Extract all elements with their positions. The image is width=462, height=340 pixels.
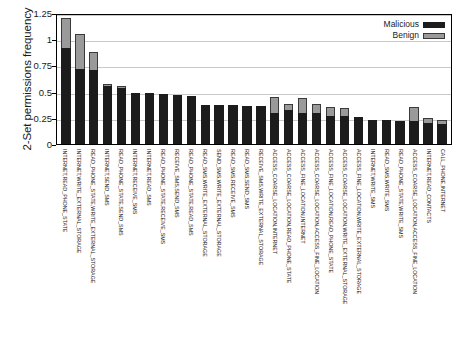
legend: Malicious Benign <box>384 19 445 41</box>
x-tick-label: RECEIVE_SMS,WRITE_EXTERNAL_STORAGE <box>258 149 264 265</box>
bar-group <box>226 15 240 144</box>
x-label-cell: ACCESS_COARSE_LOCATION,READ_PHONE_STATE <box>282 147 296 337</box>
bar-segment-malicious <box>326 116 335 144</box>
x-label-cell: ACCESS_COARSE_LOCATION,ACCESS_FINE_LOCAT… <box>408 147 422 337</box>
bar-segment-benign <box>61 18 70 47</box>
x-tick-label: READ_PHONE_STATE,READ_SMS <box>188 149 194 236</box>
bar-segment-malicious <box>187 96 196 144</box>
bar-group <box>143 15 157 144</box>
stacked-bar <box>340 108 349 144</box>
legend-item-benign: Benign <box>384 30 445 41</box>
stacked-bar <box>103 84 112 144</box>
stacked-bar <box>242 106 251 144</box>
stacked-bar <box>395 121 404 144</box>
bar-segment-malicious <box>61 48 70 144</box>
bar-group <box>129 15 143 144</box>
x-tick-label: INTERNET,SEND_SMS <box>104 149 110 206</box>
stacked-bar <box>173 95 182 144</box>
bar-group <box>101 15 115 144</box>
x-tick-label: INTERNET,READ_PHONE_STATE <box>62 149 68 232</box>
legend-swatch-malicious <box>423 22 445 28</box>
legend-label-malicious: Malicious <box>384 19 419 30</box>
x-label-cell: INTERNET,READ_CONTACTS <box>422 147 436 337</box>
x-label-cell: INTERNET,WRITE_SMS <box>366 147 380 337</box>
x-tick-label: INTERNET,WRITE_EXTERNAL_STORAGE <box>76 149 82 253</box>
x-label-cell: INTERNET,RECEIVE_SMS <box>128 147 142 337</box>
stacked-bar <box>423 118 432 144</box>
bar-segment-malicious <box>228 105 237 144</box>
stacked-bar <box>298 98 307 144</box>
x-tick-label: READ_SMS,WRITE_SMS <box>384 149 390 211</box>
bar-segment-malicious <box>103 86 112 144</box>
x-label-cell: READ_PHONE_STATE,WRITE_SMS <box>394 147 408 337</box>
stacked-bar <box>187 96 196 144</box>
bar-group <box>282 15 296 144</box>
stacked-bar <box>75 34 84 144</box>
bar-group <box>73 15 87 144</box>
x-tick-label: READ_PHONE_STATE,WRITE_EXTERNAL_STORAGE <box>90 149 96 283</box>
bar-segment-malicious <box>270 113 279 144</box>
bar-segment-benign <box>270 97 279 113</box>
bar-group <box>268 15 282 144</box>
x-label-cell: READ_SMS,WRITE_EXTERNAL_STORAGE <box>198 147 212 337</box>
x-label-cell: ACCESS_FINE_LOCATION,INTERNET <box>296 147 310 337</box>
bar-group <box>365 15 379 144</box>
chart-container: 2-Set permissions frequency 00.250.50.75… <box>0 0 462 340</box>
stacked-bar <box>159 94 168 144</box>
x-label-cell: ACCESS_FINE_LOCATION,WRITE_EXTERNAL_STOR… <box>352 147 366 337</box>
x-tick-label: ACCESS_FINE_LOCATION,WRITE_EXTERNAL_STOR… <box>356 149 362 294</box>
x-tick-label: ACCESS_COARSE_LOCATION,ACCESS_FINE_LOCAT… <box>412 149 418 294</box>
x-tick-label: READ_PHONE_STATE,RECEIVE_SMS <box>160 149 166 244</box>
bar-segment-benign <box>298 98 307 113</box>
bar-segment-malicious <box>242 106 251 144</box>
x-tick-label: ACCESS_COARSE_LOCATION,READ_PHONE_STATE <box>286 149 292 283</box>
x-tick-label: INTERNET,RECEIVE_SMS <box>132 149 138 214</box>
x-label-cell: READ_PHONE_STATE,SEND_SMS <box>114 147 128 337</box>
x-label-cell: ACCESS_COARSE_LOCATION,ACCESS_FINE_LOCAT… <box>310 147 324 337</box>
x-label-cell: READ_SMS,SEND_SMS <box>240 147 254 337</box>
x-label-cell: ACCESS_COARSE_LOCATION,WRITE_EXTERNAL_ST… <box>338 147 352 337</box>
stacked-bar <box>256 106 265 144</box>
bar-segment-benign <box>75 34 84 69</box>
stacked-bar <box>145 93 154 144</box>
x-tick-label: ACCESS_COARSE_LOCATION,ACCESS_FINE_LOCAT… <box>314 149 320 294</box>
stacked-bar <box>228 105 237 144</box>
bar-group <box>337 15 351 144</box>
x-tick-label: ACCESS_FINE_LOCATION,INTERNET <box>300 149 306 244</box>
bar-segment-malicious <box>340 116 349 144</box>
y-tick-label: 0.5 <box>8 88 52 97</box>
bar-group <box>115 15 129 144</box>
bar-group <box>156 15 170 144</box>
stacked-bar <box>201 105 210 144</box>
stacked-bar <box>270 97 279 144</box>
bar-segment-malicious <box>173 95 182 144</box>
bar-group <box>296 15 310 144</box>
y-tick-label: 1 <box>8 35 52 44</box>
stacked-bar <box>61 18 70 144</box>
bar-segment-malicious <box>159 94 168 144</box>
x-label-cell: ACCESS_FINE_LOCATION,READ_PHONE_STATE <box>324 147 338 337</box>
bar-segment-benign <box>312 104 321 112</box>
x-tick-label: READ_SMS,RECEIVE_SMS <box>230 149 236 218</box>
x-tick-label: INTERNET,WRITE_SMS <box>370 149 376 208</box>
x-label-cell: CALL_PHONE,INTERNET <box>436 147 450 337</box>
stacked-bar <box>382 120 391 144</box>
legend-label-benign: Benign <box>393 30 419 41</box>
bar-group <box>254 15 268 144</box>
x-label-cell: RECEIVE_SMS,WRITE_EXTERNAL_STORAGE <box>254 147 268 337</box>
x-label-cell: RECEIVE_SMS,SEND_SMS <box>170 147 184 337</box>
stacked-bar <box>326 107 335 144</box>
bar-segment-malicious <box>312 113 321 144</box>
stacked-bar <box>409 107 418 144</box>
bar-group <box>310 15 324 144</box>
y-tick-label: 1.25 <box>8 9 52 18</box>
bar-segment-malicious <box>75 69 84 144</box>
stacked-bar <box>131 93 140 144</box>
legend-item-malicious: Malicious <box>384 19 445 30</box>
bar-group <box>212 15 226 144</box>
x-label-cell: READ_SMS,RECEIVE_SMS <box>226 147 240 337</box>
x-label-cell: READ_PHONE_STATE,WRITE_EXTERNAL_STORAGE <box>86 147 100 337</box>
x-label-cell: SEND_SMS,WRITE_EXTERNAL_STORAGE <box>212 147 226 337</box>
stacked-bar <box>117 86 126 144</box>
stacked-bar <box>284 104 293 144</box>
